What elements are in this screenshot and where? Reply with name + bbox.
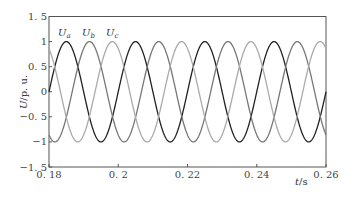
y-tick-label: 1 bbox=[41, 36, 47, 47]
x-tick-label: 0. 24 bbox=[244, 169, 269, 180]
label-uc: Uc bbox=[106, 27, 118, 40]
series-lines bbox=[49, 42, 326, 142]
x-tick-label: 0. 18 bbox=[36, 169, 61, 180]
chart: 1. 510. 50−0. 5−1−1. 5 0. 180. 20. 220. … bbox=[0, 0, 356, 197]
x-axis: 0. 180. 20. 220. 240. 26 bbox=[36, 164, 338, 180]
label-ub: Ub bbox=[82, 27, 95, 40]
x-tick-label: 0. 2 bbox=[109, 169, 128, 180]
y-tick-label: 1. 5 bbox=[28, 11, 47, 22]
y-tick-label: −0. 5 bbox=[20, 111, 47, 122]
x-tick-label: 0. 26 bbox=[313, 169, 338, 180]
series-ua bbox=[49, 42, 326, 142]
y-tick-label: 0 bbox=[41, 86, 47, 97]
x-axis-label: t/s bbox=[295, 176, 308, 187]
label-ua: Ua bbox=[58, 27, 71, 40]
y-axis-label: U/p. u. bbox=[18, 75, 29, 109]
x-tick-label: 0. 22 bbox=[175, 169, 200, 180]
y-tick-label: −1 bbox=[32, 136, 47, 147]
y-tick-label: 0. 5 bbox=[28, 61, 47, 72]
